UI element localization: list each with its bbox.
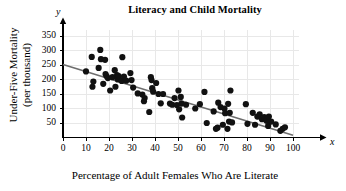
- data-point: [197, 101, 203, 107]
- data-point: [127, 70, 133, 76]
- data-point: [214, 125, 220, 131]
- x-tick-label: 70: [212, 143, 236, 153]
- data-point: [142, 95, 148, 101]
- data-point: [178, 94, 184, 100]
- x-axis-label: Percentage of Adult Females Who Are Lite…: [30, 169, 320, 181]
- x-tick-label: 100: [281, 143, 305, 153]
- data-point: [153, 80, 159, 86]
- data-point: [171, 95, 177, 101]
- x-tick-label: 80: [235, 143, 259, 153]
- data-point: [252, 122, 258, 128]
- x-tick-label: 90: [258, 143, 282, 153]
- data-point: [192, 105, 198, 111]
- data-point: [211, 108, 217, 114]
- x-axis-letter: x: [330, 136, 334, 147]
- data-point: [273, 121, 279, 127]
- data-point: [83, 68, 89, 74]
- x-tick-label: 30: [120, 143, 144, 153]
- x-tick-label: 10: [74, 143, 98, 153]
- data-point: [204, 120, 210, 126]
- y-axis-letter: y: [56, 6, 60, 17]
- x-tick-label: 50: [166, 143, 190, 153]
- y-axis-label: Under-Five Mortality (per thousand): [7, 15, 33, 135]
- y-axis-label-line1: Under-Five Mortality: [7, 28, 19, 123]
- data-point: [89, 84, 95, 90]
- data-point: [225, 101, 231, 107]
- data-point: [150, 89, 156, 95]
- y-tick-label: 50: [32, 117, 56, 127]
- data-point: [176, 106, 182, 112]
- data-point: [244, 121, 250, 127]
- y-tick-label: 200: [32, 74, 56, 84]
- data-point: [102, 57, 108, 63]
- x-tick-label: 0: [51, 143, 75, 153]
- x-tick-label: 40: [143, 143, 167, 153]
- data-point: [146, 109, 152, 115]
- y-tick-label: 100: [32, 103, 56, 113]
- data-point: [89, 54, 95, 60]
- x-tick-label: 20: [97, 143, 121, 153]
- x-tick-label: 60: [189, 143, 213, 153]
- data-point: [179, 114, 185, 120]
- data-point: [97, 47, 103, 53]
- y-tick-label: 300: [32, 45, 56, 55]
- data-point: [112, 84, 118, 90]
- data-point: [119, 54, 125, 60]
- y-tick-label: 150: [32, 88, 56, 98]
- data-point: [229, 119, 235, 125]
- y-axis-arrow: [60, 18, 66, 25]
- data-point: [90, 78, 96, 84]
- data-point: [243, 101, 249, 107]
- data-point: [201, 89, 207, 95]
- data-point: [160, 91, 166, 97]
- data-points: [83, 47, 288, 134]
- y-axis-label-line2: (per thousand): [20, 43, 32, 107]
- data-point: [175, 87, 181, 93]
- x-axis-arrow: [320, 134, 327, 140]
- chart-title: Literacy and Child Mortality: [85, 4, 305, 16]
- data-point: [227, 110, 233, 116]
- y-tick-label: 250: [32, 59, 56, 69]
- data-point: [183, 102, 189, 108]
- data-point: [107, 87, 113, 93]
- data-point: [130, 85, 136, 91]
- data-point: [96, 65, 102, 71]
- data-point: [158, 100, 164, 106]
- data-point: [282, 124, 288, 130]
- data-point: [227, 87, 233, 93]
- data-point: [128, 77, 134, 83]
- y-tick-label: 350: [32, 30, 56, 40]
- data-point: [224, 126, 230, 132]
- data-point: [100, 81, 106, 87]
- chart-figure: Literacy and Child Mortality y x Under-F…: [0, 0, 346, 191]
- data-point: [123, 78, 129, 84]
